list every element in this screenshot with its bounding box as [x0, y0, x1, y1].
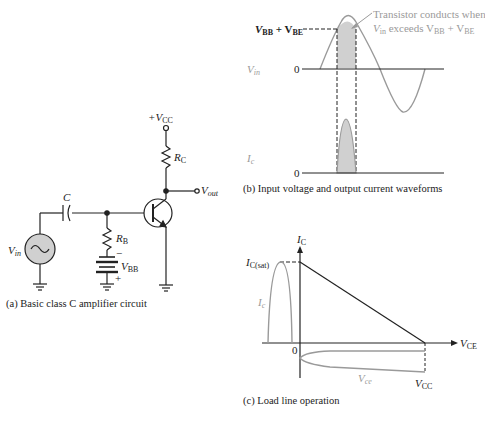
plus-sign: +	[115, 272, 121, 284]
ic-waveform-label: Ic	[246, 152, 255, 166]
waveform-panel	[302, 13, 444, 173]
y-axis-label: IC	[296, 233, 306, 247]
vcc-label: +VCC	[148, 111, 173, 125]
ground-icon	[33, 284, 47, 290]
threshold-label: VBB + VBE	[255, 23, 303, 37]
rb-label: RB	[115, 232, 128, 246]
zero-label-top: 0	[294, 63, 300, 75]
class-c-amplifier-figure: +VCC RC Vout C Vin RB VBB − + (a) Basic …	[0, 0, 485, 422]
annotation-line-1: Transistor conducts when	[373, 8, 485, 20]
vin-waveform-label: Vin	[247, 63, 260, 77]
rc-label: RC	[173, 151, 186, 165]
annotation-line-2: Vin exceeds VBB + VBE	[373, 22, 474, 36]
vce-curve-label: Vce	[358, 372, 372, 386]
load-line-panel	[262, 246, 458, 378]
x-axis-label: VCE	[460, 337, 477, 351]
vin-label: Vin	[8, 244, 21, 258]
ground-icon	[159, 285, 173, 291]
origin-label: 0	[292, 344, 298, 356]
vout-label: Vout	[201, 184, 219, 198]
capacitor-label: C	[63, 191, 71, 203]
ic-curve-label: Ic	[257, 296, 266, 310]
ground-icon	[100, 284, 114, 290]
caption-c: (c) Load line operation	[243, 395, 340, 407]
icsat-label: IC(sat)	[245, 256, 270, 270]
zero-label-bottom: 0	[294, 167, 300, 179]
vcc-axis-label: VCC	[415, 377, 432, 391]
minus-sign: −	[116, 247, 122, 259]
vbb-label: VBB	[121, 260, 138, 274]
caption-b: (b) Input voltage and output current wav…	[243, 183, 442, 195]
caption-a: (a) Basic class C amplifier circuit	[6, 298, 147, 310]
